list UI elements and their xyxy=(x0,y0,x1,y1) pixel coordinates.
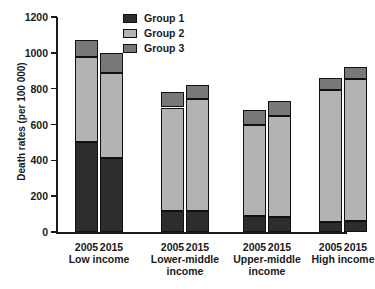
legend-swatch-icon xyxy=(123,14,137,23)
bar-upper-middle-income-2005[interactable] xyxy=(243,110,266,232)
bar-segment-group-3 xyxy=(344,67,367,79)
legend-swatch-icon xyxy=(123,44,137,53)
bar-low-income-2005[interactable] xyxy=(75,40,98,232)
y-axis-tick-label: 1000 xyxy=(8,47,48,59)
x-axis-year-label: 2015 xyxy=(186,241,209,253)
y-axis-tick xyxy=(51,195,57,197)
y-axis-tick xyxy=(51,16,57,18)
bar-segment-group-3 xyxy=(243,110,266,124)
bar-segment-group-1 xyxy=(319,222,342,232)
legend-label: Group 3 xyxy=(144,42,184,54)
y-axis-tick xyxy=(51,124,57,126)
x-axis-year-label: 2015 xyxy=(100,241,123,253)
x-axis-group-label: Upper-middleincome xyxy=(233,254,301,277)
bar-segment-group-2 xyxy=(268,116,291,217)
x-axis-group-label: Low income xyxy=(69,254,130,266)
y-axis-tick-label: 0 xyxy=(8,226,48,238)
bar-segment-group-2 xyxy=(243,125,266,216)
bar-upper-middle-income-2015[interactable] xyxy=(268,101,291,232)
legend-item[interactable]: Group 2 xyxy=(123,26,184,40)
bar-segment-group-1 xyxy=(268,217,291,232)
bar-segment-group-2 xyxy=(344,79,367,221)
bar-segment-group-3 xyxy=(268,101,291,115)
x-axis-group-label: High income xyxy=(311,254,374,266)
x-axis-year-label: 2005 xyxy=(243,241,266,253)
bar-segment-group-1 xyxy=(161,211,184,232)
x-axis-year-label: 2005 xyxy=(75,241,98,253)
x-axis-year-label: 2015 xyxy=(268,241,291,253)
bar-low-income-2015[interactable] xyxy=(100,53,123,232)
y-axis-tick-label: 200 xyxy=(8,190,48,202)
bar-segment-group-1 xyxy=(75,142,98,232)
legend-label: Group 1 xyxy=(144,12,184,24)
bar-high-income-2005[interactable] xyxy=(319,78,342,232)
x-axis-year-label: 2005 xyxy=(319,241,342,253)
bar-segment-group-3 xyxy=(319,78,342,90)
bar-segment-group-1 xyxy=(100,158,123,232)
legend-swatch-icon xyxy=(123,29,137,38)
y-axis-tick xyxy=(51,88,57,90)
legend-item[interactable]: Group 1 xyxy=(123,11,184,25)
legend-item[interactable]: Group 3 xyxy=(123,41,184,55)
x-axis-group-label: Lower-middleincome xyxy=(151,254,219,277)
bar-segment-group-3 xyxy=(100,53,123,73)
x-axis-year-label: 2015 xyxy=(344,241,367,253)
bar-segment-group-3 xyxy=(186,85,209,99)
bar-segment-group-3 xyxy=(161,92,184,107)
bar-segment-group-2 xyxy=(75,57,98,142)
y-axis-tick xyxy=(51,52,57,54)
bar-segment-group-2 xyxy=(100,73,123,158)
bar-lower-middle-income-2015[interactable] xyxy=(186,85,209,232)
plot-area: 020040060080010001200 xyxy=(57,17,347,232)
legend-label: Group 2 xyxy=(144,27,184,39)
y-axis-tick xyxy=(51,231,57,233)
bar-segment-group-3 xyxy=(75,40,98,57)
x-axis-line xyxy=(56,232,347,234)
chart-legend: Group 1Group 2Group 3 xyxy=(123,11,184,56)
bar-lower-middle-income-2005[interactable] xyxy=(161,92,184,232)
y-axis-tick xyxy=(51,160,57,162)
y-axis-tick-label: 1200 xyxy=(8,11,48,23)
bar-high-income-2015[interactable] xyxy=(344,67,367,232)
y-axis-tick-label: 800 xyxy=(8,83,48,95)
x-axis-year-label: 2005 xyxy=(161,241,184,253)
bar-segment-group-1 xyxy=(243,216,266,232)
bar-segment-group-2 xyxy=(161,108,184,212)
bar-segment-group-1 xyxy=(344,221,367,232)
bar-segment-group-1 xyxy=(186,211,209,232)
bar-segment-group-2 xyxy=(186,99,209,211)
bar-segment-group-2 xyxy=(319,90,342,223)
y-axis-tick-label: 400 xyxy=(8,154,48,166)
y-axis-tick-label: 600 xyxy=(8,119,48,131)
